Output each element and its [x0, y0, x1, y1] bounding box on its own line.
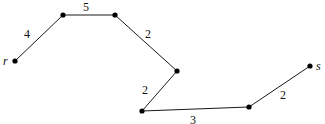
node-n3	[174, 68, 179, 73]
node-n1	[60, 12, 65, 17]
node-s	[307, 63, 312, 68]
edge-weight-label: 5	[83, 0, 89, 14]
edge-n4-n5	[142, 107, 249, 111]
node-label-r: r	[3, 54, 8, 68]
edges-group	[15, 15, 310, 111]
node-n5	[246, 104, 251, 109]
edge-weight-label: 4	[24, 27, 30, 41]
edge-weight-label: 2	[145, 27, 151, 41]
node-n2	[112, 12, 117, 17]
edge-weight-label: 3	[190, 113, 196, 124]
edge-weight-label: 2	[280, 88, 286, 102]
graph-diagram: 452232rs	[0, 0, 325, 124]
edge-n2-n3	[115, 15, 177, 71]
node-r	[12, 58, 17, 63]
edge-r-n1	[15, 15, 63, 61]
edge-weight-label: 2	[142, 83, 148, 97]
labels-group: 452232rs	[3, 0, 321, 124]
node-n4	[139, 108, 144, 113]
node-label-s: s	[316, 59, 321, 73]
nodes-group	[12, 12, 312, 113]
